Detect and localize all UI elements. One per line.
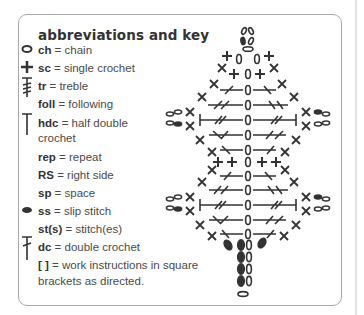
key-row-ss: ss = slip stitch (38, 204, 111, 218)
equals: = (56, 151, 69, 163)
abbr: rep (38, 151, 56, 163)
treble-icon (20, 76, 34, 98)
key-row-hdc-cont: crochet (38, 131, 76, 145)
key-row-sts: st(s) = stitch(es) (38, 222, 122, 236)
double-crochet-icon (20, 235, 34, 261)
abbr: st(s) (38, 223, 62, 235)
abbr: ss (38, 205, 51, 217)
meaning: stitch(es) (75, 223, 122, 235)
equals: = (58, 117, 71, 129)
meaning: double crochet (65, 241, 140, 253)
meaning-cont: brackets as directed. (38, 275, 144, 287)
abbr: dc (38, 241, 51, 253)
meaning: single crochet (64, 62, 135, 74)
abbr: sp (38, 187, 51, 199)
abbr: ch (38, 44, 51, 56)
key-row-sc: sc = single crochet (38, 61, 135, 75)
meaning: slip stitch (64, 205, 111, 217)
equals: = (62, 223, 75, 235)
meaning: right side (67, 169, 114, 181)
equals: = (49, 259, 62, 271)
meaning: following (68, 98, 113, 110)
equals: = (51, 241, 64, 253)
meaning: repeat (69, 151, 102, 163)
equals: = (51, 44, 64, 56)
equals: = (55, 98, 68, 110)
equals: = (54, 169, 67, 181)
key-row-sp: sp = space (38, 186, 95, 200)
meaning: treble (59, 80, 88, 92)
key-row-brackets-cont: brackets as directed. (38, 274, 144, 288)
key-row-hdc: hdc = half double (38, 116, 128, 130)
equals: = (51, 205, 64, 217)
meaning: half double (72, 117, 128, 129)
crochet-chart-diagram (150, 20, 340, 305)
chain-oval-icon (20, 44, 34, 54)
key-row-rep: rep = repeat (38, 150, 102, 164)
equals: = (51, 62, 64, 74)
key-row-tr: tr = treble (38, 79, 88, 93)
key-row-dc: dc = double crochet (38, 240, 140, 254)
page-divider-line (355, 0, 357, 315)
abbr: foll (38, 98, 55, 110)
half-double-crochet-icon (20, 112, 34, 136)
meaning: space (65, 187, 96, 199)
abbr: sc (38, 62, 51, 74)
abbr: [ ] (38, 259, 49, 271)
single-crochet-plus-icon (20, 60, 34, 74)
abbr: hdc (38, 117, 58, 129)
meaning: chain (65, 44, 93, 56)
meaning-cont: crochet (38, 132, 76, 144)
equals: = (46, 80, 59, 92)
key-row-foll: foll = following (38, 97, 113, 111)
key-row-ch: ch = chain (38, 43, 92, 57)
slip-stitch-icon (20, 205, 34, 215)
abbr: RS (38, 169, 54, 181)
key-row-rs: RS = right side (38, 168, 114, 182)
equals: = (51, 187, 64, 199)
